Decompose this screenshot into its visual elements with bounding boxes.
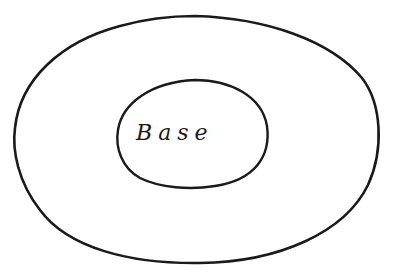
diagram-canvas: Base [0, 0, 394, 272]
inner-ellipse-label: Base [135, 120, 214, 145]
